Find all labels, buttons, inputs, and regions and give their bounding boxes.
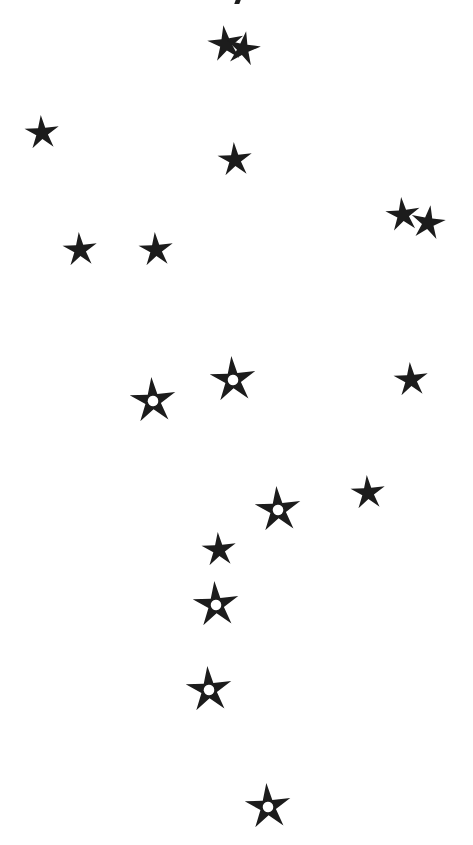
star-with-hole-icon (209, 356, 257, 404)
star-with-hole-icon (192, 581, 240, 629)
star-icon (225, 31, 261, 67)
star-with-hole-icon (185, 666, 233, 714)
star-icon (410, 205, 446, 241)
star-icon (217, 142, 253, 178)
star-icon (24, 115, 60, 151)
star-with-hole-icon (254, 486, 302, 534)
star-icon (201, 532, 237, 568)
star-field (0, 0, 473, 845)
star-with-hole-icon (129, 377, 177, 425)
edge-mark (234, 0, 240, 4)
star-icon (393, 362, 429, 398)
star-icon (350, 475, 386, 511)
star-icon (62, 232, 98, 268)
star-with-hole-icon (244, 783, 292, 831)
star-icon (138, 232, 174, 268)
